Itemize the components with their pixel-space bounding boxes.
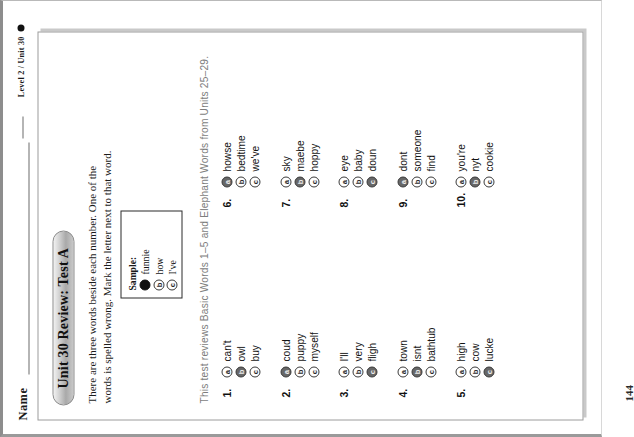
answer-bubble-c[interactable]: c — [366, 176, 377, 187]
answer-option[interactable]: bnyt — [468, 129, 482, 187]
answer-bubble-c[interactable]: c — [425, 366, 436, 377]
answer-word: I'll — [338, 352, 349, 361]
answer-bubble-a[interactable]: a — [221, 366, 232, 377]
answer-option[interactable]: bhow — [152, 218, 165, 290]
question-item: 3.aI'llbverycfligh — [337, 327, 379, 397]
answer-option[interactable]: cwe've — [248, 129, 262, 187]
answer-bubble-b[interactable]: b — [153, 279, 164, 290]
answer-word: town — [397, 339, 408, 361]
answer-bubble-b[interactable]: b — [469, 176, 480, 187]
answer-word: maebe — [294, 140, 305, 171]
answer-bubble-b[interactable]: b — [411, 366, 422, 377]
answer-bubble-c[interactable]: c — [166, 279, 177, 290]
answer-bubble-b[interactable]: b — [235, 366, 246, 377]
answer-option[interactable]: adont — [396, 129, 410, 187]
answer-bubble-a[interactable]: a — [338, 176, 349, 187]
answer-option[interactable]: cbuy — [248, 327, 262, 377]
answer-option[interactable]: bbaby — [351, 129, 365, 187]
question-item: 4.atownbisntcbathtub — [396, 327, 438, 397]
answer-option[interactable]: afunnie — [138, 218, 151, 290]
answer-option[interactable]: atown — [396, 327, 410, 377]
answer-bubble-c[interactable]: c — [366, 366, 377, 377]
question-item: 1.acan'tbowlcbuy — [220, 327, 262, 397]
page-number: 144 — [622, 385, 634, 402]
answer-word: very — [352, 342, 363, 361]
answer-word: doun — [366, 148, 377, 171]
answer-option[interactable]: clucke — [482, 327, 496, 377]
answer-bubble-c[interactable]: c — [483, 366, 494, 377]
answer-bubble-a[interactable]: a — [455, 176, 466, 187]
answer-option[interactable]: ahowse — [220, 129, 234, 187]
answer-word: nyt — [469, 157, 480, 171]
answer-option[interactable]: choppy — [307, 129, 321, 187]
answer-option[interactable]: bsomeone — [410, 129, 424, 187]
answer-option[interactable]: cdoun — [365, 129, 379, 187]
answer-word: sky — [280, 156, 291, 171]
question-item: 8.aeyebbabycdoun — [337, 129, 379, 207]
question-number: 6. — [220, 198, 232, 207]
answer-bubble-a[interactable]: a — [221, 176, 232, 187]
answer-option[interactable]: aeye — [337, 129, 351, 187]
answer-word: hoppy — [308, 143, 319, 171]
answer-option[interactable]: cmyself — [307, 327, 321, 377]
answer-word: bedtime — [235, 135, 246, 171]
answer-word: dont — [397, 151, 408, 171]
answer-bubble-a[interactable]: a — [338, 366, 349, 377]
answer-bubble-a[interactable]: a — [280, 366, 291, 377]
level-unit-label: Level 2 / Unit 30 — [16, 36, 25, 97]
answer-option[interactable]: cbathtub — [424, 327, 438, 377]
answer-bubble-a[interactable]: a — [280, 176, 291, 187]
answer-bubble-c[interactable]: c — [249, 176, 260, 187]
answer-bubble-b[interactable]: b — [235, 176, 246, 187]
answer-option[interactable]: aI'll — [337, 327, 351, 377]
answer-option[interactable]: cfind — [424, 129, 438, 187]
answer-bubble-a[interactable]: a — [139, 279, 150, 290]
answer-word: coud — [280, 339, 291, 361]
question-number: 3. — [337, 388, 349, 397]
answer-bubble-b[interactable]: b — [294, 176, 305, 187]
answer-bubble-b[interactable]: b — [469, 366, 480, 377]
answer-bubble-a[interactable]: a — [455, 366, 466, 377]
answer-option[interactable]: acoud — [279, 327, 293, 377]
worksheet-sheet: Unit 30 Review: Test A There are three w… — [37, 31, 583, 420]
answer-option[interactable]: cfligh — [365, 327, 379, 377]
answer-option[interactable]: ccookie — [482, 129, 496, 187]
answer-word: isnt — [411, 345, 422, 361]
question-item: 5.ahighbcowclucke — [454, 327, 496, 397]
answer-option[interactable]: bowl — [234, 327, 248, 377]
answer-word: puppy — [294, 333, 305, 361]
bullet-dot-icon — [17, 24, 24, 31]
question-number: 8. — [337, 198, 349, 207]
answer-bubble-a[interactable]: a — [397, 366, 408, 377]
answer-bubble-c[interactable]: c — [308, 176, 319, 187]
answer-option[interactable]: ahigh — [454, 327, 468, 377]
answer-bubble-b[interactable]: b — [411, 176, 422, 187]
answer-option[interactable]: ayou're — [454, 129, 468, 187]
question-item: 6.ahowsebbedtimecwe've — [220, 129, 262, 207]
answer-bubble-a[interactable]: a — [397, 176, 408, 187]
answer-option[interactable]: acan't — [220, 327, 234, 377]
answer-bubble-c[interactable]: c — [483, 176, 494, 187]
question-number: 2. — [279, 388, 291, 397]
answer-option[interactable]: cI've — [165, 218, 178, 290]
question-item: 2.acoudbpuppycmyself — [279, 327, 321, 397]
answer-bubble-c[interactable]: c — [308, 366, 319, 377]
answer-bubble-c[interactable]: c — [249, 366, 260, 377]
answer-option[interactable]: bisnt — [410, 327, 424, 377]
answer-word: myself — [308, 332, 319, 361]
answer-option[interactable]: bmaebe — [293, 129, 307, 187]
sample-options: afunniebhowcI've — [138, 218, 178, 290]
answer-option[interactable]: bpuppy — [293, 327, 307, 377]
answer-option[interactable]: bvery — [351, 327, 365, 377]
question-item: 10.ayou'rebnytccookie — [454, 129, 496, 207]
answer-bubble-c[interactable]: c — [425, 176, 436, 187]
answer-bubble-b[interactable]: b — [352, 366, 363, 377]
answer-option[interactable]: asky — [279, 129, 293, 187]
answer-word: funnie — [139, 249, 150, 274]
answer-bubble-b[interactable]: b — [294, 366, 305, 377]
question-item: 7.askybmaebechoppy — [279, 129, 321, 207]
question-number: 10. — [454, 192, 466, 207]
answer-bubble-b[interactable]: b — [352, 176, 363, 187]
answer-option[interactable]: bcow — [468, 327, 482, 377]
answer-option[interactable]: bbedtime — [234, 129, 248, 187]
